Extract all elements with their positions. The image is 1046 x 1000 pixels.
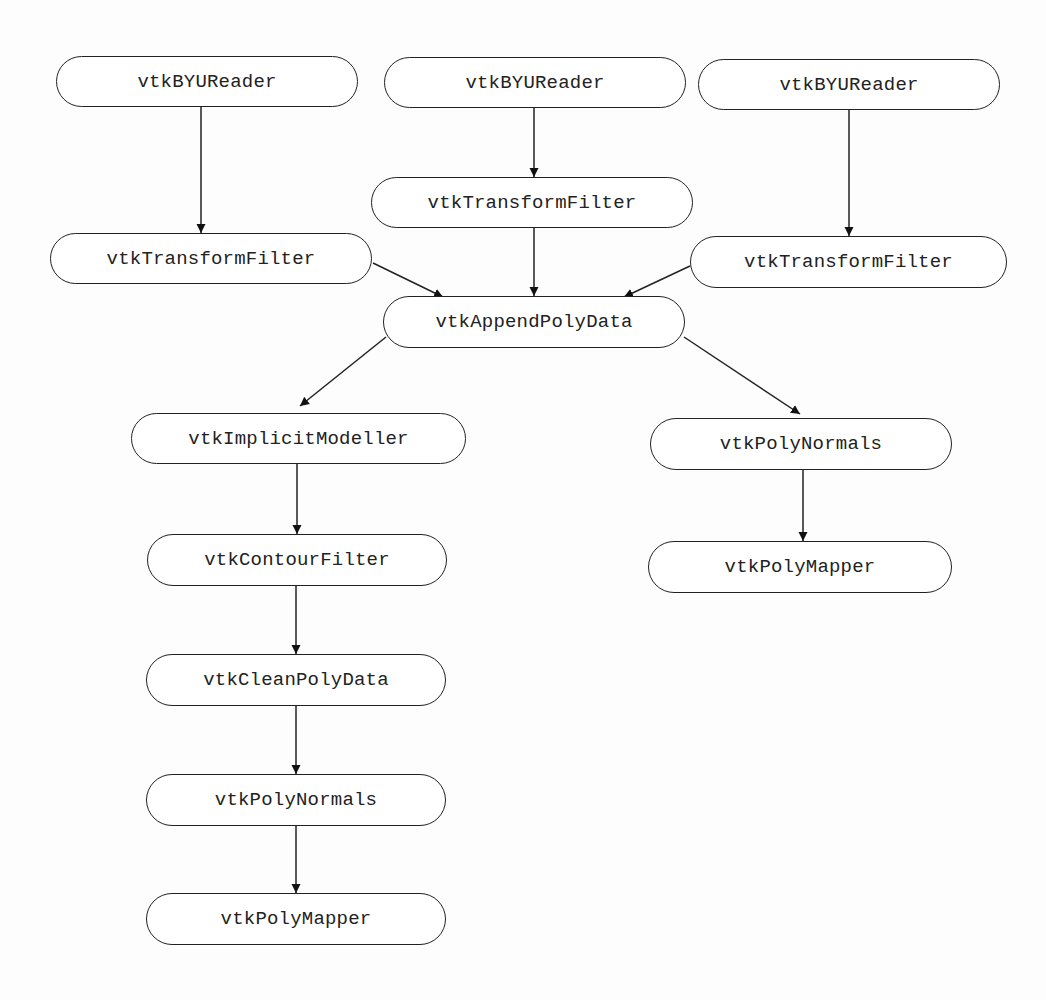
node-label: vtkTransformFilter: [428, 192, 637, 214]
node-transform3: vtkTransformFilter: [690, 236, 1007, 288]
pipeline-diagram: vtkBYUReadervtkBYUReadervtkBYUReadervtkT…: [0, 0, 1046, 1000]
node-label: vtkImplicitModeller: [188, 428, 408, 450]
node-normalsL: vtkPolyNormals: [146, 774, 446, 826]
node-label: vtkBYUReader: [779, 74, 918, 96]
node-reader3: vtkBYUReader: [698, 59, 1000, 110]
arrow-transform1-to-append: [373, 263, 443, 297]
arrow-append-to-normalsR: [684, 337, 800, 414]
node-mapperR: vtkPolyMapper: [648, 541, 952, 593]
node-label: vtkPolyNormals: [720, 433, 882, 455]
node-label: vtkCleanPolyData: [203, 669, 389, 691]
node-label: vtkBYUReader: [137, 71, 276, 93]
node-normalsR: vtkPolyNormals: [650, 418, 952, 470]
node-label: vtkAppendPolyData: [435, 311, 632, 333]
node-label: vtkPolyMapper: [221, 908, 372, 930]
node-label: vtkPolyNormals: [215, 789, 377, 811]
node-contour: vtkContourFilter: [147, 534, 447, 586]
node-label: vtkBYUReader: [465, 72, 604, 94]
node-transform2: vtkTransformFilter: [371, 177, 693, 228]
node-reader2: vtkBYUReader: [384, 57, 686, 108]
node-label: vtkTransformFilter: [107, 248, 316, 270]
node-implicit: vtkImplicitModeller: [131, 413, 466, 464]
node-reader1: vtkBYUReader: [56, 56, 358, 107]
node-label: vtkPolyMapper: [725, 556, 876, 578]
arrow-append-to-implicit: [300, 337, 386, 406]
node-mapperL: vtkPolyMapper: [146, 893, 446, 945]
node-append: vtkAppendPolyData: [383, 296, 685, 348]
arrow-transform3-to-append: [624, 266, 690, 297]
node-transform1: vtkTransformFilter: [50, 233, 372, 284]
node-label: vtkTransformFilter: [744, 251, 953, 273]
node-clean: vtkCleanPolyData: [146, 654, 446, 706]
node-label: vtkContourFilter: [204, 549, 390, 571]
edges-layer: [0, 0, 1046, 1000]
